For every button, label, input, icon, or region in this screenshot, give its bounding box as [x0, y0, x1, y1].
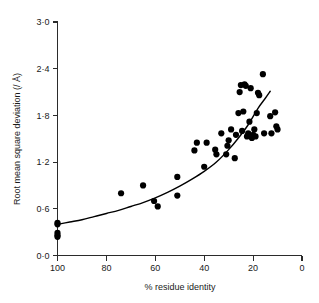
data-point [118, 190, 124, 196]
data-point [256, 92, 262, 98]
x-tick-label: 100 [50, 263, 65, 273]
plot-canvas: 0·00·61·21·82·43·0 100806040200 % residu… [0, 0, 319, 303]
x-tick-label: 80 [101, 263, 111, 273]
x-tick-label: 40 [199, 263, 209, 273]
x-tick-label: 0 [299, 263, 304, 273]
data-point [151, 198, 157, 204]
y-tick-label: 0·0 [36, 251, 49, 261]
x-axis-tick-labels: 100806040200 [50, 263, 305, 273]
data-point [267, 113, 273, 119]
x-tick-label: 60 [150, 263, 160, 273]
data-point [201, 164, 207, 170]
data-point [240, 108, 246, 114]
data-point [228, 126, 234, 132]
data-point [268, 130, 274, 136]
data-point [233, 132, 239, 138]
data-point [252, 133, 258, 139]
data-point [239, 128, 245, 134]
data-point [191, 147, 197, 153]
scatter-plot-figure: 0·00·61·21·82·43·0 100806040200 % residu… [0, 0, 319, 303]
data-point [232, 155, 238, 161]
data-point [260, 71, 266, 77]
y-tick-label: 1·2 [36, 157, 49, 167]
data-point [223, 151, 229, 157]
data-point [246, 119, 252, 125]
data-point [155, 203, 161, 209]
data-point [251, 126, 257, 132]
y-tick-label: 0·6 [36, 204, 49, 214]
data-points-group [54, 71, 280, 240]
data-point [272, 109, 278, 115]
data-point [274, 126, 280, 132]
data-point [204, 140, 210, 146]
data-point [213, 151, 219, 157]
y-axis-tick-labels: 0·00·61·21·82·43·0 [36, 17, 49, 261]
data-point [174, 192, 180, 198]
data-point [174, 174, 180, 180]
data-point [140, 182, 146, 188]
data-point [237, 89, 243, 95]
data-point [54, 221, 60, 227]
x-tick-label: 20 [248, 263, 258, 273]
axes-group [58, 22, 303, 256]
data-point [54, 234, 60, 240]
data-point [218, 130, 224, 136]
data-point [224, 143, 230, 149]
y-tick-label: 3·0 [36, 17, 49, 27]
data-point [248, 85, 254, 91]
data-point [254, 110, 260, 116]
y-tick-label: 2·4 [36, 64, 49, 74]
y-axis-title: Root mean square deviation (/ Å) [12, 73, 22, 205]
x-axis-title: % residue identity [144, 282, 216, 292]
x-axis-ticks [58, 256, 303, 261]
y-tick-label: 1·8 [36, 111, 49, 121]
data-point [194, 140, 200, 146]
data-point [261, 130, 267, 136]
data-point [226, 137, 232, 143]
